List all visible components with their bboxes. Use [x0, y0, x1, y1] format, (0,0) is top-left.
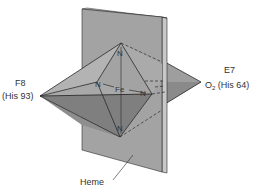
f8-label: F8: [15, 78, 26, 88]
heme-label: Heme: [80, 177, 104, 187]
e7-label: E7: [224, 65, 235, 75]
n-bottom-label: N: [117, 124, 123, 133]
heme-plane-edge: [162, 17, 167, 173]
n-top-label: N: [117, 49, 123, 58]
his93-label: (His 93): [2, 91, 34, 101]
heme-octahedron-diagram: N N N N Fe F8 (His 93) E7 O2 (His 64) He…: [0, 0, 262, 196]
fe-label: Fe: [115, 85, 125, 94]
n-right-label: N: [140, 89, 146, 98]
n-left-label: N: [95, 80, 101, 89]
o2-his64-label: O2 (His 64): [205, 80, 249, 91]
right-pyramid: [165, 62, 201, 104]
